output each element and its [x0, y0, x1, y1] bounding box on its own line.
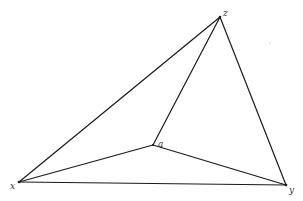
- vertex-a: [152, 144, 154, 146]
- background: [0, 0, 303, 201]
- scan-speck: [269, 42, 271, 44]
- label-z: z: [222, 8, 228, 18]
- label-a: a: [158, 139, 163, 149]
- label-y: y: [288, 185, 295, 195]
- vertex-x: [18, 181, 21, 184]
- vertex-z: [219, 16, 222, 19]
- vertex-y: [285, 184, 288, 187]
- label-x: x: [10, 181, 15, 191]
- graph-diagram: z x y a: [0, 0, 303, 201]
